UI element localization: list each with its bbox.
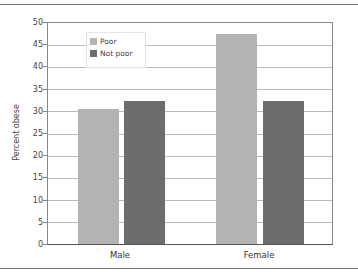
y-tick-40: 40 [33,62,43,71]
y-tick-15: 15 [33,173,43,182]
y-tick-20: 20 [33,151,43,160]
plot-area: Poor Not poor [47,22,333,245]
y-tick-10: 10 [33,195,43,204]
legend-item-not-poor: Not poor [90,48,145,59]
bar-female-poor [216,34,257,244]
legend: Poor Not poor [86,32,146,68]
legend-label-poor: Poor [100,37,117,46]
x-label-female: Female [214,250,304,260]
gridline [48,89,332,90]
legend-item-poor: Poor [90,36,145,47]
legend-swatch-not-poor [90,50,97,57]
legend-label-not-poor: Not poor [100,49,133,58]
y-tick-35: 35 [33,84,43,93]
bottom-rule [0,268,358,269]
y-tick-50: 50 [33,18,43,27]
y-axis-label: Percent obese [12,103,21,163]
legend-swatch-poor [90,38,97,45]
x-label-male: Male [75,250,165,260]
y-tick-45: 45 [33,40,43,49]
bar-male-poor [78,109,119,244]
y-tick-30: 30 [33,106,43,115]
bar-male-not-poor [124,101,165,244]
bar-female-not-poor [263,101,304,244]
y-tick-25: 25 [33,129,43,138]
top-rule [0,4,358,5]
